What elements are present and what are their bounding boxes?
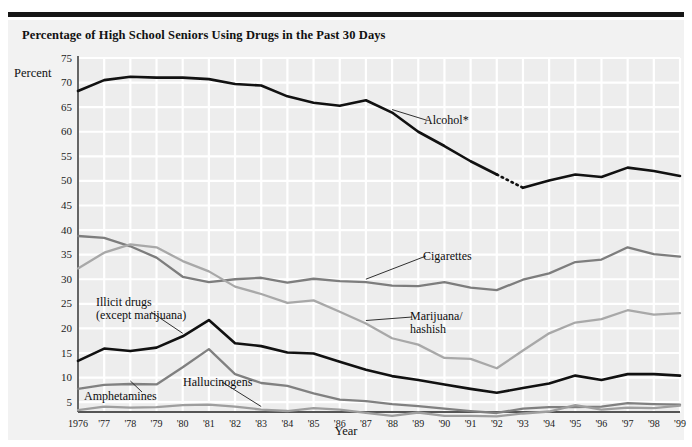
series-label-amphetamines: Amphetamines [84, 390, 157, 403]
figure-panel: Percentage of High School Seniors Using … [8, 20, 684, 440]
series-label-cigarettes: Cigarettes [423, 250, 472, 263]
series-label-marijuana: Marijuana/ hashish [410, 310, 463, 337]
plot-background [78, 58, 680, 412]
line-chart-plot [8, 20, 684, 440]
series-label-illicit-drugs: Illicit drugs (except marijuana) [96, 296, 186, 323]
series-label-alcohol: Alcohol* [424, 114, 469, 127]
series-label-hallucinogens: Hallucinogens [183, 376, 252, 389]
figure-page: Percentage of High School Seniors Using … [0, 0, 692, 447]
top-rule-divider [8, 12, 684, 17]
